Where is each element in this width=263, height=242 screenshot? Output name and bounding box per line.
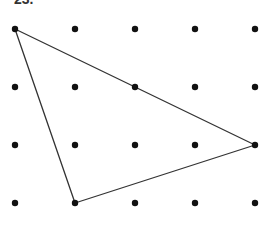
grid-dot (192, 200, 198, 206)
grid-dot (72, 84, 78, 90)
grid-dot (192, 142, 198, 148)
grid-dot (132, 142, 138, 148)
grid-dot (192, 26, 198, 32)
grid-dot (252, 200, 258, 206)
grid-dot (72, 142, 78, 148)
grid-dot (132, 84, 138, 90)
grid-dot (12, 200, 18, 206)
dot-grid (12, 26, 258, 206)
grid-dot (132, 26, 138, 32)
dot-grid-diagram (0, 0, 263, 242)
triangle (15, 29, 255, 203)
grid-dot (72, 26, 78, 32)
grid-dot (252, 26, 258, 32)
grid-dot (12, 142, 18, 148)
grid-dot (192, 84, 198, 90)
grid-dot (72, 200, 78, 206)
grid-dot (12, 84, 18, 90)
grid-dot (252, 84, 258, 90)
triangle-outline (15, 29, 255, 203)
grid-dot (132, 200, 138, 206)
grid-dot (252, 142, 258, 148)
grid-dot (12, 26, 18, 32)
